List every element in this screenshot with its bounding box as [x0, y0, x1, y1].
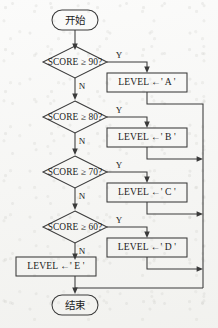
- flowchart-svg: 开始 SCORE ≥ 90? Y N LEVEL ←' A ' SCORE ≥ …: [0, 0, 218, 328]
- node-process-level-c[interactable]: LEVEL ←' C ': [107, 183, 187, 202]
- edge-d70-yes-to-pC: [107, 172, 147, 179]
- branch-label-d60-no: N: [79, 246, 86, 256]
- arrowhead-pC-merge: [197, 211, 203, 217]
- branch-label-d70-no: N: [79, 191, 86, 201]
- node-process-level-a[interactable]: LEVEL ←' A ': [107, 73, 187, 92]
- branch-label-d60-yes: Y: [116, 215, 123, 225]
- edge-d60-yes-to-pD: [107, 227, 147, 234]
- node-process-level-d[interactable]: LEVEL ←' D ': [107, 238, 187, 257]
- node-decision-score-80[interactable]: SCORE ≥ 80?: [43, 101, 107, 133]
- node-decision-score-90[interactable]: SCORE ≥ 90?: [43, 46, 107, 78]
- edge-d90-yes-to-pA: [107, 62, 147, 69]
- node-decision-score-60[interactable]: SCORE ≥ 60?: [43, 211, 107, 243]
- arrowhead-d80-yes: [144, 122, 150, 128]
- arrowhead-pD-merge: [197, 266, 203, 272]
- branch-label-d80-no: N: [79, 136, 86, 146]
- edge-pC-to-right-bus: [147, 202, 199, 214]
- branch-label-d90-yes: Y: [116, 50, 123, 60]
- process-a-label: LEVEL ←' A ': [118, 76, 175, 87]
- arrowhead-pB-merge: [197, 156, 203, 162]
- decision-80-label: SCORE ≥ 80?: [48, 112, 103, 122]
- arrowhead-d80-no: [72, 149, 78, 155]
- process-d-label: LEVEL ←' D ': [118, 241, 177, 252]
- decision-60-label: SCORE ≥ 60?: [48, 222, 103, 232]
- decision-90-label: SCORE ≥ 90?: [48, 57, 103, 67]
- arrowhead-d70-no: [72, 204, 78, 210]
- edge-d80-yes-to-pB: [107, 117, 147, 124]
- branch-label-d70-yes: Y: [116, 160, 123, 170]
- end-label: 结束: [65, 299, 86, 311]
- node-process-level-e[interactable]: LEVEL ←' E ': [16, 257, 96, 276]
- arrowhead-d90-yes: [144, 67, 150, 73]
- arrowhead-d90-no: [72, 94, 78, 100]
- edge-pD-to-right-bus: [147, 257, 199, 269]
- process-e-label: LEVEL ←' E ': [27, 260, 84, 271]
- arrowhead-pE-to-end: [72, 288, 78, 294]
- flowchart-canvas: 开始 SCORE ≥ 90? Y N LEVEL ←' A ' SCORE ≥ …: [0, 0, 218, 328]
- branch-label-d80-yes: Y: [116, 105, 123, 115]
- node-end[interactable]: 结束: [52, 295, 98, 315]
- arrowhead-d60-yes: [144, 232, 150, 238]
- node-decision-score-70[interactable]: SCORE ≥ 70?: [43, 156, 107, 188]
- process-b-label: LEVEL ←' B ': [118, 131, 176, 142]
- process-c-label: LEVEL ←' C ': [118, 186, 176, 197]
- edge-pB-to-right-bus: [147, 147, 199, 159]
- decision-70-label: SCORE ≥ 70?: [48, 167, 103, 177]
- arrowhead-d70-yes: [144, 177, 150, 183]
- branch-label-d90-no: N: [79, 81, 86, 91]
- node-start[interactable]: 开始: [52, 10, 98, 30]
- flowchart-page: 开始 SCORE ≥ 90? Y N LEVEL ←' A ' SCORE ≥ …: [0, 0, 218, 328]
- start-label: 开始: [65, 14, 86, 26]
- node-process-level-b[interactable]: LEVEL ←' B ': [107, 128, 187, 147]
